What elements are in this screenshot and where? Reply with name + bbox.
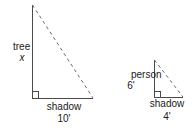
tree-triangle-group	[32, 5, 94, 98]
person-height-value-label: 6'	[127, 81, 134, 91]
person-shadow-label: shadow	[150, 99, 184, 109]
tree-shadow-label: shadow	[47, 102, 81, 112]
person-shadow-value-label: 4'	[163, 112, 170, 122]
person-right-angle-marker	[155, 91, 161, 97]
tree-height-value-label: x	[20, 53, 25, 63]
tree-right-angle-marker	[33, 92, 39, 98]
person-label: person	[131, 70, 162, 80]
tree-shadow-value-label: 10'	[57, 114, 70, 124]
shadow-similar-triangles-figure: tree x shadow 10' person 6' shadow 4'	[0, 0, 194, 137]
tree-label: tree	[13, 42, 30, 52]
tree-hypotenuse-dashed	[33, 5, 94, 98]
